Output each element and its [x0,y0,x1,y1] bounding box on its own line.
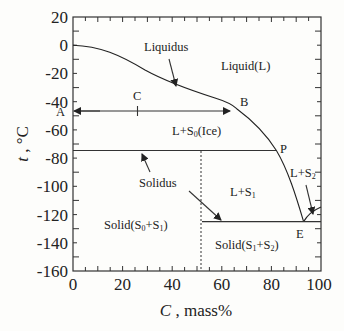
svg-text:0: 0 [60,36,69,55]
solidus-pointer-down [189,191,221,220]
label-solid-s0-s1: Solid(S0+S1) [104,218,168,233]
label-solidus: Solidus [139,176,177,190]
svg-text:-80: -80 [45,149,68,168]
x-tick-labels: 0 20 40 60 80 100 [69,275,332,294]
l-s2-pointer [306,185,313,214]
label-l-s0: L+S0(Ice) [172,124,221,139]
svg-text:-100: -100 [37,177,68,196]
point-p-label: P [280,142,287,156]
svg-text:80: 80 [263,275,280,294]
svg-text:20: 20 [51,8,68,27]
svg-text:-140: -140 [37,234,68,253]
svg-text:-20: -20 [45,64,68,83]
label-liquid: Liquid(L) [221,59,270,73]
label-liquidus: Liquidus [144,40,189,54]
svg-text:0: 0 [69,275,78,294]
phase-diagram: 20 0 -20 -40 -60 -80 -100 -120 -140 -160… [0,0,344,331]
svg-text:20: 20 [114,275,131,294]
label-l-s1: L+S1 [230,185,256,200]
point-a-label: A [56,105,65,119]
x-ticks [85,17,308,271]
point-b-label: B [240,95,248,109]
svg-text:60: 60 [213,275,230,294]
svg-text:-160: -160 [37,262,68,281]
label-l-s2: L+S2 [290,166,316,181]
point-e-label: E [296,227,304,241]
label-solid-s1-s2: Solid(S1+S2) [215,238,279,253]
svg-text:100: 100 [306,275,332,294]
svg-text:-60: -60 [45,121,68,140]
svg-text:-120: -120 [37,206,68,225]
y-tick-labels: 20 0 -20 -40 -60 -80 -100 -120 -140 -160 [37,8,68,281]
solidus-pointer-up [142,154,150,172]
point-c-label: C [133,89,141,103]
y-axis-label: t , °C [13,126,32,162]
svg-text:40: 40 [164,275,181,294]
x-axis-label: C , mass% [160,301,232,320]
